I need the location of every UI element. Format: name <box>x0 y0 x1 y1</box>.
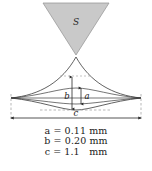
b-dimension-label: b <box>64 91 69 101</box>
diagram-svg: S <box>0 0 152 128</box>
outer-lens-upper-curve <box>11 57 141 98</box>
c-dimension-label: c <box>74 108 79 118</box>
figure-container: S <box>0 0 152 171</box>
inner-lens-upper-curve <box>11 88 141 98</box>
source-label: S <box>73 17 79 27</box>
legend-block: a = 0.11 mm b = 0.20 mm c = 1.1 mm <box>0 126 152 157</box>
legend-row-c: c = 1.1 mm <box>0 147 152 157</box>
a-dimension-label: a <box>84 91 89 101</box>
source-triangle <box>43 3 109 55</box>
